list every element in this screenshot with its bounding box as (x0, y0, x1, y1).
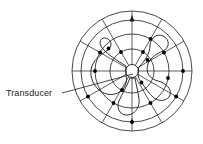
marker-point (130, 120, 134, 124)
marker-point (112, 101, 116, 105)
marker-point (174, 95, 178, 99)
spoke-60 (135, 19, 162, 65)
marker-point (146, 58, 150, 62)
marker-point (141, 50, 145, 54)
marker-point (120, 88, 124, 92)
spoke-150 (80, 41, 126, 68)
spoke-240 (102, 77, 129, 123)
marker-point (93, 69, 97, 73)
marker-point (162, 51, 166, 55)
lobe-lower (118, 78, 139, 115)
spoke-30 (138, 41, 184, 68)
polar-scan-diagram: Transducer (0, 0, 203, 144)
spoke-120 (102, 19, 129, 65)
marker-point (98, 51, 102, 55)
transducer-label: Transducer (6, 88, 52, 98)
marker-point (86, 95, 90, 99)
marker-point (119, 50, 123, 54)
lobe-left (91, 38, 127, 95)
marker-point (181, 69, 185, 73)
marker-point (107, 47, 111, 51)
marker-point (140, 81, 144, 85)
axis-arrow-up-icon (130, 15, 135, 22)
marker-point (149, 37, 153, 41)
figure-canvas: Transducer (0, 0, 203, 144)
marker-point (166, 76, 170, 80)
marker-point (149, 101, 153, 105)
